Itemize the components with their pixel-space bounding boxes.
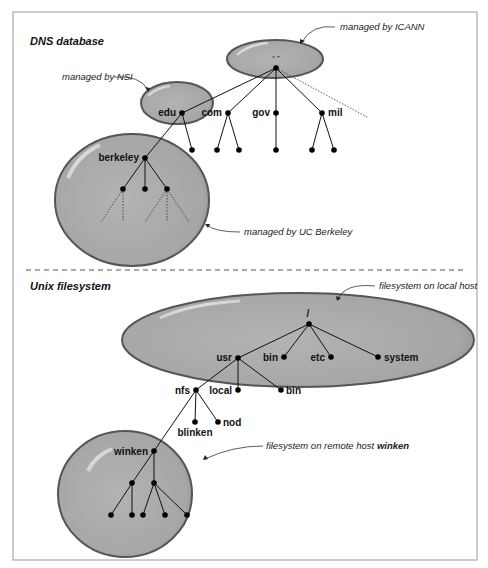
note-nsi: managed by NSI bbox=[62, 71, 133, 82]
edge-root-more bbox=[276, 68, 367, 117]
label-bin-top: bin bbox=[263, 352, 278, 363]
node-bin-top bbox=[281, 354, 287, 360]
diagram-svg: DNS database “ ” bbox=[0, 0, 488, 568]
label-winken: winken bbox=[113, 446, 148, 457]
node-mil bbox=[319, 110, 325, 116]
node-edu bbox=[179, 110, 185, 116]
dns-section: DNS database “ ” bbox=[30, 21, 425, 266]
callout-icann bbox=[302, 27, 335, 42]
node-winken bbox=[151, 448, 157, 454]
label-mil: mil bbox=[328, 107, 343, 118]
label-com: com bbox=[201, 107, 222, 118]
label-etc: etc bbox=[311, 352, 326, 363]
label-blinken: blinken bbox=[177, 427, 212, 438]
label-berkeley: berkeley bbox=[98, 152, 139, 163]
note-remote-hostname: winken bbox=[377, 440, 409, 451]
callout-ucb bbox=[207, 225, 240, 232]
note-ucb: managed by UC Berkeley bbox=[244, 226, 353, 237]
node-root bbox=[273, 65, 279, 71]
note-icann: managed by ICANN bbox=[340, 21, 425, 32]
node-nfs bbox=[193, 387, 199, 393]
label-nod: nod bbox=[223, 417, 241, 428]
callout-remote-host bbox=[205, 446, 263, 459]
node-com bbox=[225, 110, 231, 116]
label-system: system bbox=[384, 352, 419, 363]
node-root-dir bbox=[306, 321, 312, 327]
node-nod bbox=[215, 419, 221, 425]
node-usr bbox=[235, 355, 241, 361]
node-gov bbox=[273, 110, 279, 116]
label-root-dir: / bbox=[307, 308, 310, 319]
node-berkeley bbox=[142, 155, 148, 161]
node-bin-usr bbox=[278, 387, 284, 393]
note-local-host: filesystem on local host bbox=[379, 280, 478, 291]
node-etc bbox=[328, 354, 334, 360]
unix-section: Unix filesystem bbox=[30, 280, 478, 557]
unix-title: Unix filesystem bbox=[30, 280, 111, 292]
dns-title: DNS database bbox=[30, 35, 104, 47]
label-edu: edu bbox=[158, 107, 176, 118]
note-remote-host: filesystem on remote host winken bbox=[266, 440, 409, 451]
label-gov: gov bbox=[252, 107, 270, 118]
node-system bbox=[375, 354, 381, 360]
note-remote-prefix: filesystem on remote host bbox=[266, 440, 377, 451]
label-nfs: nfs bbox=[175, 385, 190, 396]
node-local bbox=[235, 387, 241, 393]
diagram-canvas: DNS database “ ” bbox=[0, 0, 488, 568]
node-blinken bbox=[192, 419, 198, 425]
label-bin-usr: bin bbox=[286, 385, 301, 396]
label-usr: usr bbox=[216, 352, 232, 363]
root-label: “ ” bbox=[272, 54, 280, 63]
label-local: local bbox=[209, 385, 232, 396]
local-filesystem-blob bbox=[122, 293, 474, 387]
